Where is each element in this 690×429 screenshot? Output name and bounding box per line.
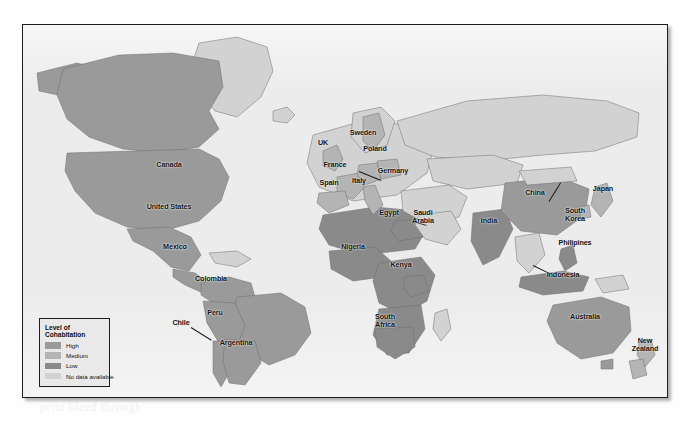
land-masses	[23, 25, 667, 397]
country-united-states	[65, 149, 229, 231]
country-south-korea	[579, 205, 591, 219]
legend-swatch-medium	[45, 352, 61, 359]
country-philipines	[559, 245, 577, 271]
world-map-figure: Canada United States Mexico Colombia Per…	[22, 24, 668, 398]
country-iceland	[273, 107, 295, 123]
country-madagascar	[433, 309, 451, 341]
country-russia	[397, 95, 639, 161]
legend-label-low: Low	[66, 362, 77, 369]
country-japan	[591, 183, 613, 217]
legend-item-no-data: No data available	[45, 373, 104, 380]
country-saudi-arabia	[415, 211, 461, 245]
island-tasmania	[601, 359, 613, 369]
country-indonesia	[519, 271, 589, 295]
page-background: the hidden page showing through faint re…	[0, 0, 690, 429]
country-south-africa	[375, 327, 415, 359]
country-canada	[57, 53, 223, 153]
country-spain	[317, 191, 349, 213]
country-india	[471, 209, 513, 265]
legend-item-medium: Medium	[45, 352, 104, 359]
country-caribbean	[209, 251, 251, 267]
legend-label-high: High	[66, 342, 79, 349]
legend-swatch-no-data	[45, 373, 61, 380]
country-china	[501, 177, 589, 235]
legend-swatch-low	[45, 363, 61, 370]
legend-label-no-data: No data available	[66, 373, 114, 380]
legend-swatch-high	[45, 342, 61, 349]
map-legend: Level of Cohabitation High Medium Low No…	[39, 318, 110, 387]
country-mexico	[127, 227, 201, 271]
country-argentina	[223, 339, 261, 385]
legend-item-low: Low	[45, 362, 104, 369]
legend-item-high: High	[45, 342, 104, 349]
region-southeast-asia	[515, 233, 545, 273]
country-australia	[547, 297, 631, 359]
country-papua-new-guinea	[595, 275, 629, 293]
bleed-text: print bleed through	[40, 400, 141, 415]
legend-label-medium: Medium	[66, 352, 88, 359]
legend-title: Level of Cohabitation	[45, 324, 104, 338]
